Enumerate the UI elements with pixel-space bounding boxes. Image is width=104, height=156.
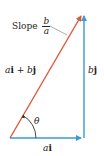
slope-denominator: a [44, 27, 49, 36]
angle-theta-label: θ [34, 117, 39, 126]
horizontal-i: i [48, 143, 51, 153]
resultant-j: j [33, 65, 36, 75]
vertical-j: j [94, 65, 97, 75]
vector-diagram: Slope b a ai + bj bj θ ai [0, 0, 104, 156]
slope-leader-line [50, 26, 67, 35]
resultant-label: ai + bj [5, 66, 36, 75]
horizontal-component-label: ai [43, 144, 52, 153]
vertical-component-label: bj [88, 66, 97, 75]
slope-word: Slope [12, 21, 38, 31]
resultant-plus: + [14, 65, 27, 75]
slope-label: Slope b a [12, 17, 50, 37]
slope-fraction: b a [42, 17, 50, 37]
